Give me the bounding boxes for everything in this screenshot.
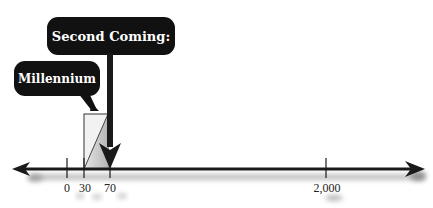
- tick-labels: 0 30 70 2,000: [64, 181, 341, 195]
- tick-label-30: 30: [79, 181, 91, 195]
- timeline-diagram: 0 30 70 2,000 Second Coming: Millennium: [0, 0, 433, 208]
- tick-label-70: 70: [104, 181, 116, 195]
- tick-label-0: 0: [64, 181, 70, 195]
- tick-label-2000: 2,000: [314, 181, 341, 195]
- second-coming-label: Second Coming:: [52, 29, 170, 44]
- millennium-label: Millennium: [18, 72, 96, 86]
- millennium-callout: Millennium: [14, 61, 100, 111]
- millennium-span: [84, 114, 108, 169]
